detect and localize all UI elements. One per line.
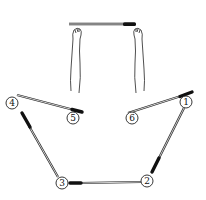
rod-1-to-2 [152, 108, 184, 172]
right-arm-icon [134, 28, 145, 93]
step-label: 6 [129, 113, 135, 123]
step-marker-4: 4 [6, 97, 18, 109]
step-label: 2 [144, 176, 150, 186]
rod-4-to-5 [17, 95, 82, 112]
step-marker-1: 1 [180, 96, 192, 108]
step-label: 1 [183, 97, 189, 107]
rod-2-to-3 [70, 182, 141, 183]
rod-3-to-4 [22, 113, 58, 177]
step-marker-5: 5 [67, 112, 79, 124]
top-rod [69, 22, 136, 26]
step-marker-3: 3 [56, 177, 68, 189]
step-marker-2: 2 [141, 175, 153, 187]
step-marker-6: 6 [126, 112, 138, 124]
step-label: 5 [70, 113, 76, 123]
left-arm-icon [71, 28, 82, 93]
step-label: 3 [59, 178, 65, 188]
step-label: 4 [9, 98, 15, 108]
diagram-canvas: 1 2 3 4 5 6 [0, 0, 206, 200]
